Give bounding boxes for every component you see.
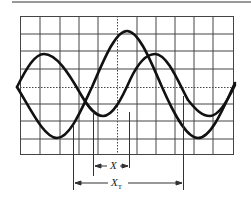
waveform-b — [17, 54, 235, 116]
xt-label: XT — [110, 177, 123, 193]
xt-label-subscript: T — [118, 183, 122, 191]
x-label-text: X — [110, 159, 117, 171]
measurement-markers — [74, 96, 184, 190]
xt-label-text: X — [111, 176, 118, 188]
x-label: X — [109, 160, 118, 171]
oscilloscope-diagram — [0, 0, 251, 204]
waveform-a — [17, 31, 235, 138]
